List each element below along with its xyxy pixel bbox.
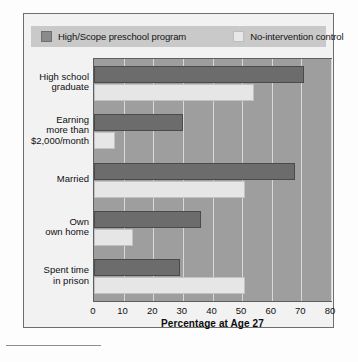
legend-entry-preschool: High/Scope preschool program: [41, 31, 186, 42]
gridline-70: [301, 59, 302, 301]
chart-legend: High/Scope preschool program No-interven…: [31, 26, 326, 47]
category-label-2: Married: [20, 174, 89, 185]
legend-label-control: No-intervention control: [250, 31, 343, 42]
x-axis-ticks: 01020304050607080: [93, 305, 332, 319]
bar-4-1: [94, 277, 245, 294]
x-tick-label-80: 80: [325, 305, 336, 316]
chart-figure: High/Scope preschool program No-interven…: [0, 0, 358, 362]
bar-1-0: [94, 114, 183, 131]
category-label-line: in prison: [20, 276, 89, 287]
category-label-4: Spent timein prison: [20, 265, 89, 286]
category-label-line: $2,000/month: [20, 136, 89, 147]
x-axis-title: Percentage at Age 27: [93, 318, 332, 329]
category-label-line: graduate: [20, 82, 89, 93]
category-label-3: Ownown home: [20, 217, 89, 238]
x-tick-label-30: 30: [177, 305, 188, 316]
legend-entry-control: No-intervention control: [233, 31, 343, 42]
gridline-80: [331, 59, 332, 301]
bar-3-0: [94, 211, 201, 228]
category-label-1: Earningmore than$2,000/month: [20, 115, 89, 147]
bar-4-0: [94, 259, 180, 276]
category-label-0: High schoolgraduate: [20, 72, 89, 93]
bar-0-0: [94, 66, 304, 83]
x-tick-label-0: 0: [90, 305, 95, 316]
category-label-line: own home: [20, 227, 89, 238]
x-tick-label-70: 70: [295, 305, 306, 316]
x-tick-label-60: 60: [265, 305, 276, 316]
bar-2-1: [94, 181, 245, 198]
bar-1-1: [94, 132, 115, 149]
legend-label-preschool: High/Scope preschool program: [58, 31, 186, 42]
legend-swatch-preschool-icon: [41, 31, 52, 42]
plot-area: [93, 58, 332, 302]
bar-2-0: [94, 163, 295, 180]
caption-rule: [6, 345, 101, 346]
x-tick-label-20: 20: [147, 305, 158, 316]
x-tick-label-40: 40: [206, 305, 217, 316]
x-tick-label-10: 10: [117, 305, 128, 316]
legend-swatch-control-icon: [233, 31, 244, 42]
gridline-60: [272, 59, 273, 301]
x-tick-label-50: 50: [236, 305, 247, 316]
bar-0-1: [94, 84, 254, 101]
bar-3-1: [94, 229, 133, 246]
category-axis-labels: High schoolgraduateEarningmore than$2,00…: [20, 58, 89, 302]
category-label-line: Married: [20, 174, 89, 185]
